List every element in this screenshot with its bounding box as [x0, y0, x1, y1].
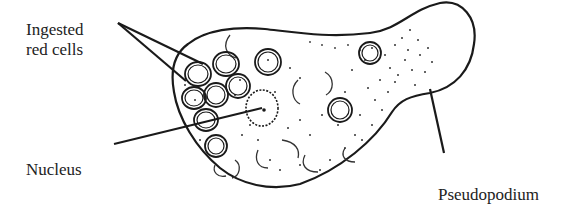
red-cell	[226, 74, 250, 98]
label-nucleus: Nucleus	[26, 160, 82, 180]
label-ingested-line1: Ingested	[26, 20, 84, 40]
nucleus-pointer	[114, 108, 262, 144]
label-ingested-red-cells: Ingested red cells	[26, 20, 84, 60]
pseudopodium-pointer	[430, 89, 444, 153]
red-cell	[205, 135, 227, 157]
red-cell	[185, 62, 211, 86]
cell-membrane	[173, 2, 475, 187]
label-pseudopodium: Pseudopodium	[438, 185, 539, 205]
red-cell	[182, 87, 206, 109]
red-cell	[213, 52, 239, 76]
ingested-red-cells	[182, 42, 381, 157]
label-ingested-line2: red cells	[26, 40, 84, 60]
amoeba-diagram	[0, 0, 577, 215]
red-cell	[255, 49, 281, 75]
red-cell	[204, 83, 228, 107]
pointer-lines	[114, 23, 444, 153]
red-cell	[359, 42, 381, 64]
cytoplasm-granules	[184, 29, 433, 171]
red-cell	[328, 98, 352, 122]
